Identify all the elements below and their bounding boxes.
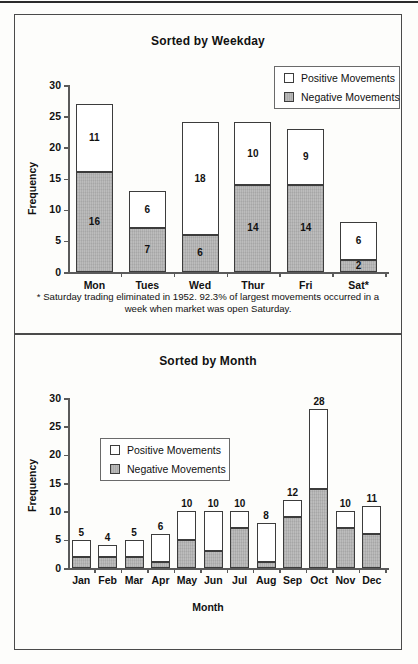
- y-tick-mark: [64, 568, 69, 570]
- x-tick-mark: [306, 569, 308, 573]
- y-axis-title-month: Frequency: [26, 459, 38, 512]
- bar-segment-positive: [98, 545, 117, 556]
- bar-total-label: 8: [257, 510, 276, 521]
- y-tick-label: 0: [34, 266, 61, 278]
- y-tick-mark: [64, 179, 69, 181]
- segment-value-negative: 7: [129, 244, 166, 255]
- x-tick-label: Aug: [253, 574, 279, 586]
- x-tick-label: May: [174, 574, 200, 586]
- scan-edge-rule: [0, 1, 418, 3]
- x-tick-mark: [94, 569, 96, 573]
- bar-segment-negative: [309, 489, 328, 568]
- y-tick-label: 30: [34, 79, 61, 91]
- bar-total-label: 28: [309, 396, 328, 407]
- y-tick-label: 20: [34, 141, 61, 153]
- bar-total-label: 6: [151, 521, 170, 532]
- x-tick-mark: [147, 569, 149, 573]
- y-tick-mark: [64, 147, 69, 149]
- chart-title-month: Sorted by Month: [14, 354, 402, 368]
- bar-fri: 914: [287, 85, 324, 272]
- x-tick-mark: [332, 569, 334, 573]
- bar-total-label: 4: [98, 532, 117, 543]
- x-tick-label: Tues: [121, 279, 174, 291]
- y-tick-mark: [64, 272, 69, 274]
- legend-row-negative: Negative Movements: [110, 463, 220, 475]
- bar-jul: 10: [230, 398, 249, 568]
- y-tick-label: 25: [34, 420, 61, 432]
- x-tick-mark: [359, 569, 361, 573]
- bar-segment-negative: [336, 528, 355, 568]
- bar-feb: 4: [98, 398, 117, 568]
- segment-value-negative: 14: [287, 222, 324, 233]
- x-tick-label: Jan: [68, 574, 94, 586]
- bar-segment-negative: [72, 557, 91, 568]
- x-tick-label: Jun: [200, 574, 226, 586]
- chart-legend-weekday: Positive Movements Negative Movements: [274, 66, 400, 109]
- segment-value-negative: 2: [340, 260, 377, 271]
- y-tick-label: 15: [34, 172, 61, 184]
- chart-legend-month: Positive Movements Negative Movements: [100, 438, 230, 481]
- segment-value-negative: 6: [182, 247, 219, 258]
- chart-footnote: * Saturday trading eliminated in 1952. 9…: [26, 291, 390, 316]
- bar-segment-positive: [72, 540, 91, 557]
- y-tick-mark: [64, 241, 69, 243]
- x-tick-mark: [253, 569, 255, 573]
- y-axis-title-weekday: Frequency: [26, 162, 38, 215]
- bar-total-label: 10: [336, 498, 355, 509]
- bar-segment-positive: [230, 511, 249, 528]
- y-tick-mark: [64, 455, 69, 457]
- bar-total-label: 10: [230, 498, 249, 509]
- bar-segment-positive: [336, 511, 355, 528]
- x-tick-label: Fri: [279, 279, 332, 291]
- x-tick-mark: [174, 569, 176, 573]
- x-tick-label: Mar: [121, 574, 147, 586]
- y-tick-label: 5: [34, 533, 61, 545]
- segment-value-positive: 11: [76, 132, 113, 143]
- legend-label-negative: Negative Movements: [127, 463, 226, 475]
- bar-segment-negative: [125, 557, 144, 568]
- y-tick-label: 5: [34, 234, 61, 246]
- x-tick-label: Wed: [174, 279, 227, 291]
- bar-segment-negative: [283, 517, 302, 568]
- bar-segment-negative: [98, 557, 117, 568]
- x-tick-label: Sat*: [332, 279, 385, 291]
- legend-label-positive: Positive Movements: [127, 444, 221, 456]
- x-tick-label: Sep: [279, 574, 305, 586]
- x-axis-title-month: Month: [14, 601, 402, 613]
- x-tick-mark: [174, 273, 176, 277]
- bar-segment-positive: [204, 511, 223, 551]
- bar-total-label: 10: [177, 498, 196, 509]
- bar-wed: 186: [182, 85, 219, 272]
- y-tick-mark: [64, 426, 69, 428]
- y-tick-mark: [64, 210, 69, 212]
- bar-sat: 62: [340, 85, 377, 272]
- bar-segment-positive: [309, 409, 328, 488]
- x-tick-label: Dec: [359, 574, 385, 586]
- bar-mar: 5: [125, 398, 144, 568]
- bar-aug: 8: [257, 398, 276, 568]
- segment-value-negative: 14: [234, 222, 271, 233]
- bar-segment-positive: [177, 511, 196, 539]
- bar-total-label: 12: [283, 487, 302, 498]
- bar-segment-positive: [151, 534, 170, 562]
- x-tick-mark: [121, 569, 123, 573]
- bar-segment-positive: [125, 540, 144, 557]
- x-tick-mark: [227, 273, 229, 277]
- bar-segment-positive: [362, 506, 381, 534]
- segment-value-positive: 6: [129, 204, 166, 215]
- plot-area-weekday: 0510152025301116Mon67Tues186Wed1014Thur9…: [68, 85, 385, 272]
- x-tick-label: Jul: [227, 574, 253, 586]
- x-tick-mark: [385, 273, 387, 277]
- bar-segment-negative: [151, 562, 170, 568]
- bar-segment-negative: [257, 562, 276, 568]
- bar-total-label: 5: [125, 527, 144, 538]
- bar-segment-positive: [283, 500, 302, 517]
- y-tick-mark: [64, 483, 69, 485]
- bar-jan: 5: [72, 398, 91, 568]
- segment-value-negative: 16: [76, 216, 113, 227]
- bar-thur: 1014: [234, 85, 271, 272]
- bar-total-label: 11: [362, 493, 381, 504]
- y-tick-label: 15: [34, 477, 61, 489]
- figure-page: Sorted by Weekday 0510152025301116Mon67T…: [0, 0, 418, 664]
- bar-tues: 67: [129, 85, 166, 272]
